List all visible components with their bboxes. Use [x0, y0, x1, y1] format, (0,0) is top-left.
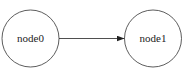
node-node1[interactable]: node1 [125, 10, 182, 67]
node1-label: node1 [140, 32, 167, 44]
node-node0[interactable]: node0 [2, 10, 59, 67]
graph-canvas: node0 node1 [0, 0, 189, 79]
node0-label: node0 [17, 32, 44, 44]
